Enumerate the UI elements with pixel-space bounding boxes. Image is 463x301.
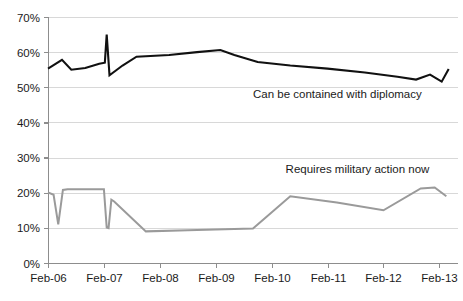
series-group bbox=[48, 35, 449, 232]
x-tick-label: Feb-10 bbox=[254, 272, 290, 284]
x-tick-label: Feb-09 bbox=[198, 272, 234, 284]
annotation-group: Can be contained with diplomacyRequires … bbox=[253, 88, 430, 176]
grid-lines bbox=[48, 18, 458, 229]
y-tick-label: 30% bbox=[17, 152, 40, 164]
y-tick-label: 20% bbox=[17, 187, 40, 199]
series-annotation-1: Can be contained with diplomacy bbox=[253, 88, 422, 100]
y-tick-label: 10% bbox=[17, 222, 40, 234]
x-tick-label: Feb-13 bbox=[421, 272, 457, 284]
x-tick-label: Feb-08 bbox=[142, 272, 178, 284]
series-annotation-2: Requires military action now bbox=[286, 163, 431, 175]
x-tick-label: Feb-07 bbox=[86, 272, 122, 284]
y-tick-label: 0% bbox=[23, 258, 40, 270]
y-tick-label: 70% bbox=[17, 12, 40, 24]
y-tick-label: 60% bbox=[17, 47, 40, 59]
x-tick-label: Feb-12 bbox=[365, 272, 401, 284]
series-line-1 bbox=[48, 35, 449, 82]
y-tick-label: 40% bbox=[17, 117, 40, 129]
x-axis: Feb-06Feb-07Feb-08Feb-09Feb-10Feb-11Feb-… bbox=[30, 264, 458, 285]
x-tick-label: Feb-06 bbox=[30, 272, 66, 284]
chart-container: 0%10%20%30%40%50%60%70% Feb-06Feb-07Feb-… bbox=[0, 0, 463, 301]
series-line-2 bbox=[48, 187, 446, 231]
line-chart: 0%10%20%30%40%50%60%70% Feb-06Feb-07Feb-… bbox=[0, 0, 463, 301]
y-axis: 0%10%20%30%40%50%60%70% bbox=[17, 12, 49, 270]
x-tick-label: Feb-11 bbox=[311, 272, 347, 284]
y-tick-label: 50% bbox=[17, 82, 40, 94]
